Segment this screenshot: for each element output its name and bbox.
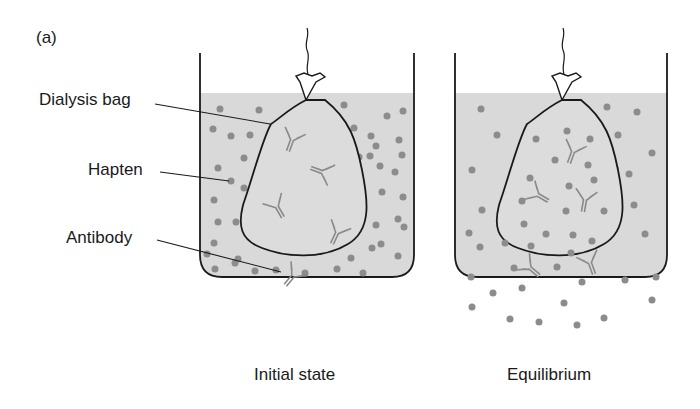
beaker-equilibrium [455,28,667,329]
beaker-initial [155,28,414,292]
dialysis-diagram [0,0,700,409]
